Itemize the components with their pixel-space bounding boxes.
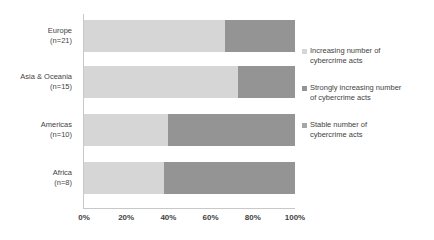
bar-segment — [164, 162, 295, 194]
plot-area — [84, 14, 295, 208]
category-label-line: (n=10) — [0, 130, 72, 140]
x-tick-label: 100% — [275, 213, 315, 222]
legend-swatch-strongly-increasing-icon — [302, 86, 307, 91]
x-tick-label: 0% — [64, 213, 104, 222]
category-label: Africa(n=8) — [0, 168, 72, 188]
x-axis-line — [83, 208, 295, 209]
category-label: Americas(n=10) — [0, 120, 72, 140]
bar-segment — [168, 114, 295, 146]
legend-swatch-stable-icon — [302, 123, 307, 128]
bar-row — [84, 20, 295, 52]
legend-label-line: of cybercrime acts — [310, 93, 434, 103]
legend-label-line: cybercrime acts — [310, 130, 434, 140]
legend-item[interactable]: Stable number ofcybercrime acts — [302, 120, 434, 140]
legend-label: Strongly increasing numberof cybercrime … — [310, 83, 434, 103]
legend-item[interactable]: Increasing number ofcybercrime acts — [302, 46, 434, 66]
legend-item[interactable]: Strongly increasing numberof cybercrime … — [302, 83, 434, 103]
bar-segment — [84, 66, 238, 98]
bar-segment — [84, 114, 168, 146]
legend-label-line: cybercrime acts — [310, 56, 434, 66]
legend-label: Increasing number ofcybercrime acts — [310, 46, 434, 66]
category-label-line: Americas — [0, 120, 72, 130]
bar-segment — [84, 20, 225, 52]
bar-row — [84, 114, 295, 146]
category-label-line: Africa — [0, 168, 72, 178]
x-tick-label: 60% — [191, 213, 231, 222]
stacked-bar — [84, 66, 295, 98]
bar-segment — [225, 20, 295, 52]
bar-segment — [238, 66, 295, 98]
legend-label-line: Increasing number of — [310, 46, 434, 56]
category-label-line: (n=15) — [0, 82, 72, 92]
stacked-bar-chart: Europe(n=21)Asia & Oceania(n=15)Americas… — [0, 0, 434, 240]
stacked-bar — [84, 20, 295, 52]
bar-segment — [84, 162, 164, 194]
legend-label-line: Strongly increasing number — [310, 83, 434, 93]
category-label-line: Europe — [0, 26, 72, 36]
category-label: Europe(n=21) — [0, 26, 72, 46]
legend-label: Stable number ofcybercrime acts — [310, 120, 434, 140]
category-label-line: Asia & Oceania — [0, 72, 72, 82]
stacked-bar — [84, 162, 295, 194]
legend-swatch-increasing-icon — [302, 49, 307, 54]
bar-row — [84, 66, 295, 98]
x-tick-label: 80% — [233, 213, 273, 222]
category-label-line: (n=8) — [0, 178, 72, 188]
x-tick-label: 40% — [148, 213, 188, 222]
category-label-line: (n=21) — [0, 36, 72, 46]
category-label: Asia & Oceania(n=15) — [0, 72, 72, 92]
stacked-bar — [84, 114, 295, 146]
legend-label-line: Stable number of — [310, 120, 434, 130]
x-tick-label: 20% — [106, 213, 146, 222]
bar-row — [84, 162, 295, 194]
